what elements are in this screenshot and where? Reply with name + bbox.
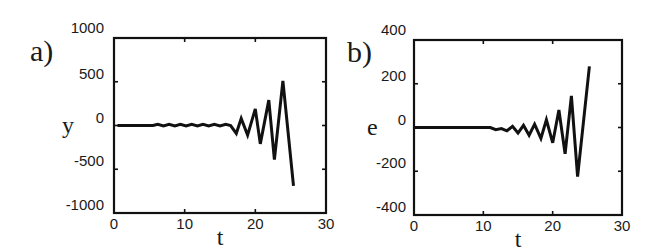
chart-panel-b: b)et4002000-200-4000102030 xyxy=(347,21,630,252)
y-tick-label: -400 xyxy=(376,198,406,215)
y-tick-label: 0 xyxy=(398,111,406,128)
y-tick-label: -1000 xyxy=(66,196,104,213)
x-tick-label: 10 xyxy=(176,215,193,232)
y-tick-label: 500 xyxy=(79,65,104,82)
y-axis-label: y xyxy=(62,112,74,138)
x-axis-label: t xyxy=(217,224,224,250)
x-tick-label: 30 xyxy=(614,217,631,234)
y-tick-label: -200 xyxy=(376,154,406,171)
data-series-e xyxy=(414,66,589,176)
x-tick-label: 10 xyxy=(475,217,492,234)
panel-label: a) xyxy=(30,34,53,68)
figure: a)yt10005000-500-10000102030b)et4002000-… xyxy=(0,0,656,252)
y-tick-label: 0 xyxy=(96,109,104,126)
chart-panel-a: a)yt10005000-500-10000102030 xyxy=(30,19,334,250)
x-tick-label: 0 xyxy=(410,217,418,234)
y-tick-label: 200 xyxy=(381,67,406,84)
x-tick-label: 0 xyxy=(110,215,118,232)
y-axis-label: e xyxy=(367,114,378,140)
panel-label: b) xyxy=(347,35,372,69)
y-tick-label: 400 xyxy=(381,21,406,38)
x-tick-label: 20 xyxy=(544,217,561,234)
data-series-y xyxy=(118,81,294,186)
x-tick-label: 30 xyxy=(318,215,335,232)
y-tick-label: 1000 xyxy=(71,19,104,36)
y-tick-label: -500 xyxy=(74,152,104,169)
x-tick-label: 20 xyxy=(247,215,264,232)
x-axis-label: t xyxy=(515,226,522,252)
